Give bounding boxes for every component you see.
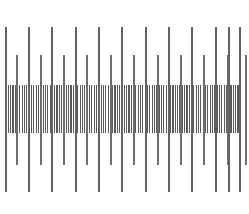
ruler-scale-figure xyxy=(0,0,249,214)
tick-canvas xyxy=(0,0,249,214)
